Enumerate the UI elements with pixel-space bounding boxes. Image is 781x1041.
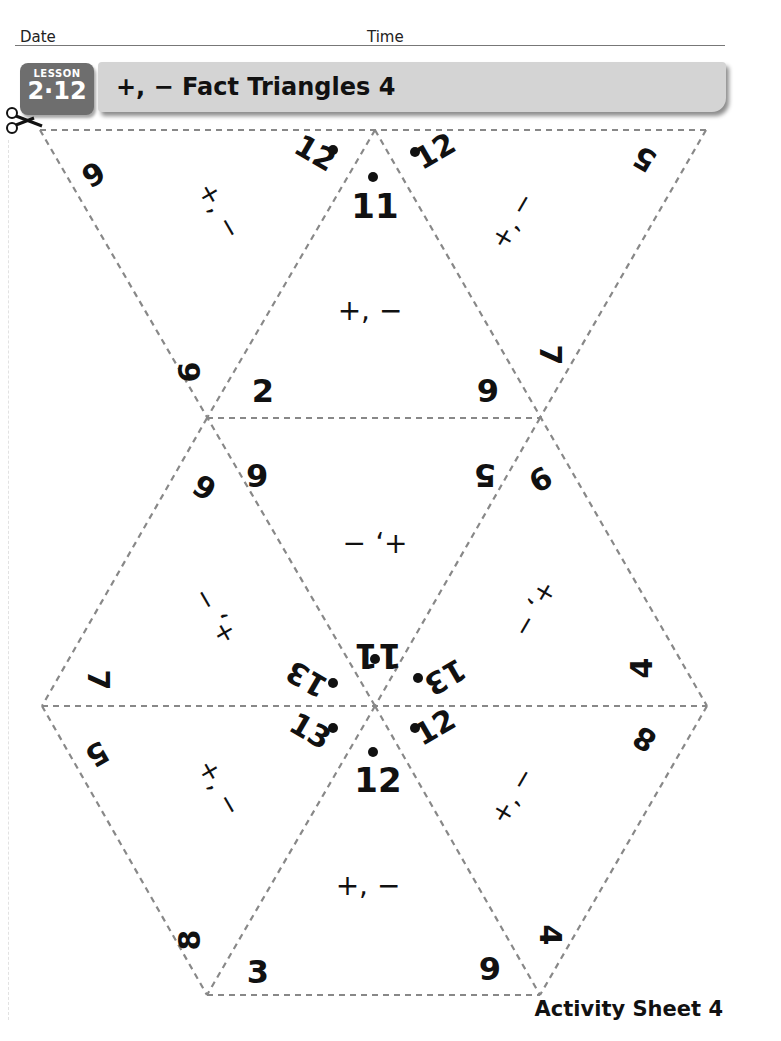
operations: +, − [192, 754, 248, 821]
triangle-bottom-center: 12 +, − 3 9 [247, 747, 501, 991]
operations: +, − [508, 576, 564, 643]
addend: 4 [533, 925, 568, 946]
addend: 8 [627, 719, 663, 760]
sum: 12 [354, 760, 401, 800]
operations: +, − [343, 528, 408, 561]
operations: +, − [336, 869, 401, 902]
sum: 12 [408, 701, 462, 752]
scissors-icon [7, 108, 42, 133]
addend: 6 [187, 467, 223, 508]
operations: +, − [192, 177, 248, 244]
addend: 9 [479, 950, 501, 988]
addend: 5 [474, 456, 496, 494]
triangle-bottom-left: 5 13 8 +, − [79, 705, 338, 950]
addend: 6 [172, 362, 207, 383]
cut-lines [40, 130, 707, 995]
operations: +, − [338, 294, 403, 327]
addend: 9 [477, 372, 499, 410]
sum: 11 [351, 186, 398, 226]
activity-sheet-label: Activity Sheet 4 [535, 997, 723, 1021]
addend: 7 [533, 345, 568, 366]
triangle-middle-left: 6 7 13 +, − [81, 467, 338, 705]
triangle-top-center: 11 +, − 2 9 [252, 172, 499, 410]
fact-triangle-sheet: 6 12 6 +, − 11 +, − 2 9 12 5 7 +, − 6 7 … [0, 0, 781, 1041]
addend: 2 [252, 372, 274, 410]
addend: 7 [81, 670, 116, 691]
addend: 6 [246, 456, 268, 494]
operations: +, − [186, 583, 242, 650]
triangle-middle-right: 9 4 13 +, − [413, 459, 659, 703]
triangle-middle-center: 6 5 +, − 11 [246, 456, 496, 676]
triangle-bottom-right: 12 8 4 +, − [408, 701, 663, 945]
addend: 6 [75, 154, 111, 195]
addend: 3 [247, 953, 269, 991]
addend: 4 [624, 658, 659, 679]
addend: 9 [522, 459, 558, 500]
addend: 5 [79, 734, 115, 775]
triangle-top-right: 12 5 7 +, − [408, 125, 663, 365]
operations: +, − [484, 762, 540, 829]
operations: +, − [484, 187, 540, 254]
addend: 8 [172, 930, 207, 951]
sum: 12 [408, 125, 462, 176]
sum: 13 [418, 652, 472, 703]
sum: 13 [280, 654, 334, 705]
addend: 5 [627, 139, 663, 180]
